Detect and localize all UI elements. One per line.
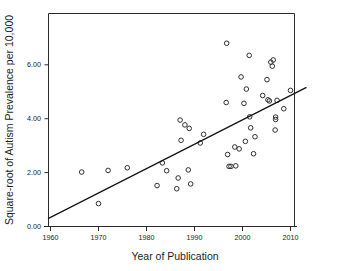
x-tick-label: 1990	[187, 233, 203, 242]
y-tick-label: 6.00	[27, 60, 41, 69]
x-tick-label: 2000	[235, 233, 251, 242]
x-tick-label: 1970	[91, 233, 107, 242]
chart-canvas: 0.00 2.00 4.00 6.00 1960 1970 1980 1990 …	[0, 0, 348, 271]
y-tick-label: 2.00	[27, 168, 41, 177]
chart-background	[0, 0, 348, 271]
y-axis-title: Square-root of Autism Prevalence per 10,…	[3, 15, 15, 225]
y-tick-label: 0.00	[27, 222, 41, 231]
scatter-plot-figure: 0.00 2.00 4.00 6.00 1960 1970 1980 1990 …	[0, 0, 348, 271]
x-tick-label: 2010	[283, 233, 299, 242]
y-tick-label: 4.00	[27, 114, 41, 123]
x-tick-label: 1980	[139, 233, 155, 242]
x-axis-title: Year of Publication	[131, 250, 218, 262]
x-tick-label: 1960	[43, 233, 59, 242]
